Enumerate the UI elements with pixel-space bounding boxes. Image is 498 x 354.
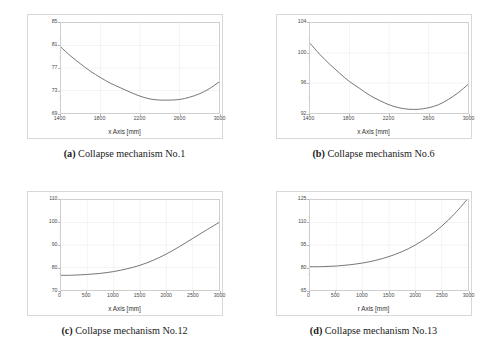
y-tick-mark — [58, 199, 60, 200]
x-tick-mark — [349, 114, 350, 116]
y-tick-mark — [307, 222, 309, 223]
chart-inner-a: Collapse load [kN/m²] 6973778185 1400180… — [28, 15, 222, 138]
x-tick-label: 0 — [307, 293, 310, 298]
y-tick-mark — [307, 268, 309, 269]
x-tick-label: 1500 — [383, 293, 395, 298]
y-tick-mark — [307, 245, 309, 246]
x-tick-labels-b: 14001800220026003000 — [277, 116, 471, 125]
x-tick-mark — [362, 291, 363, 293]
x-tick-label: 1800 — [343, 116, 355, 121]
figure-panel-b: Collapse load [kN/m²] 9296100104 1400180… — [249, 0, 498, 177]
plot-svg-d — [310, 200, 468, 290]
panel-tag-d: (d) — [310, 325, 322, 336]
panel-tag-a: (a) — [64, 148, 76, 159]
x-tick-label: 0 — [58, 293, 61, 298]
x-axis-title-a: x Axis [mm] — [28, 128, 222, 135]
figure-panel-d: Collapse load [kN/m²] 658095110125 05001… — [249, 177, 498, 354]
x-tick-mark — [140, 291, 141, 293]
y-axis-title-wrap-b: Collapse load [kN/m²] — [281, 21, 291, 116]
x-tick-label: 2600 — [174, 116, 186, 121]
figure-panel-c: Collapse load [kN/m²] 708090100110 05001… — [0, 177, 249, 354]
panel-caption-text-a: Collapse mechanism No.1 — [78, 148, 185, 159]
x-tick-label: 2200 — [134, 116, 146, 121]
x-tick-label: 1400 — [54, 116, 66, 121]
x-tick-mark — [113, 291, 114, 293]
y-tick-label: 125 — [298, 196, 307, 201]
chart-frame-c: Collapse load [kN/m²] 708090100110 05001… — [27, 191, 223, 316]
x-tick-label: 2000 — [160, 293, 172, 298]
panel-tag-c: (c) — [61, 325, 72, 336]
x-axis-title-d: r Axis [mm] — [277, 305, 471, 312]
x-tick-label: 2000 — [409, 293, 421, 298]
x-tick-mark — [220, 291, 221, 293]
x-tick-mark — [335, 291, 336, 293]
x-tick-label: 3000 — [463, 116, 475, 121]
x-axis-title-c: x Axis [mm] — [28, 305, 222, 312]
x-tick-label: 1500 — [134, 293, 146, 298]
y-tick-mark — [307, 22, 309, 23]
x-tick-mark — [469, 114, 470, 116]
y-axis-title-wrap-c: Collapse load [kN/m²] — [32, 198, 42, 293]
y-tick-label: 104 — [298, 19, 307, 24]
x-tick-mark — [60, 291, 61, 293]
plot-svg-c — [61, 200, 219, 290]
plot-area-a — [60, 22, 220, 114]
x-tick-label: 2500 — [187, 293, 199, 298]
x-tick-label: 3000 — [214, 293, 226, 298]
x-tick-mark — [86, 291, 87, 293]
x-tick-label: 2500 — [436, 293, 448, 298]
x-tick-mark — [140, 114, 141, 116]
x-tick-labels-d: 050010001500200025003000 — [277, 293, 471, 302]
x-tick-mark — [180, 114, 181, 116]
y-axis-title-wrap-d: Collapse load [kN/m²] — [281, 198, 291, 293]
x-tick-mark — [389, 291, 390, 293]
y-tick-mark — [58, 68, 60, 69]
plot-svg-b — [310, 23, 468, 113]
plot-area-c — [60, 199, 220, 291]
x-tick-mark — [309, 114, 310, 116]
figure-panel-grid: Collapse load [kN/m²] 6973778185 1400180… — [0, 0, 498, 354]
x-axis-title-b: x Axis [mm] — [277, 128, 471, 135]
y-tick-label: 110 — [298, 219, 306, 224]
chart-inner-c: Collapse load [kN/m²] 708090100110 05001… — [28, 192, 222, 315]
panel-caption-d: (d) Collapse mechanism No.13 — [310, 325, 437, 336]
x-tick-label: 1000 — [356, 293, 368, 298]
y-tick-mark — [58, 245, 60, 246]
x-tick-label: 3000 — [463, 293, 475, 298]
x-tick-label: 1800 — [94, 116, 106, 121]
y-tick-mark — [58, 45, 60, 46]
x-tick-mark — [469, 291, 470, 293]
x-tick-label: 2200 — [383, 116, 395, 121]
y-tick-mark — [58, 91, 60, 92]
panel-caption-text-c: Collapse mechanism No.12 — [75, 325, 187, 336]
y-tick-mark — [58, 268, 60, 269]
panel-caption-c: (c) Collapse mechanism No.12 — [61, 325, 187, 336]
y-tick-label: 110 — [49, 196, 57, 201]
x-tick-mark — [389, 114, 390, 116]
x-tick-mark — [220, 114, 221, 116]
panel-caption-a: (a) Collapse mechanism No.1 — [64, 148, 186, 159]
x-tick-mark — [166, 291, 167, 293]
chart-inner-b: Collapse load [kN/m²] 9296100104 1400180… — [277, 15, 471, 138]
y-tick-mark — [58, 222, 60, 223]
plot-area-b — [309, 22, 469, 114]
chart-inner-d: Collapse load [kN/m²] 658095110125 05001… — [277, 192, 471, 315]
plot-svg-a — [61, 23, 219, 113]
y-tick-mark — [307, 199, 309, 200]
y-tick-mark — [307, 83, 309, 84]
chart-frame-a: Collapse load [kN/m²] 6973778185 1400180… — [27, 14, 223, 139]
x-tick-label: 1000 — [107, 293, 119, 298]
y-tick-mark — [307, 53, 309, 54]
panel-caption-text-d: Collapse mechanism No.13 — [325, 325, 437, 336]
x-tick-label: 500 — [82, 293, 91, 298]
panel-caption-b: (b) Collapse mechanism No.6 — [312, 148, 434, 159]
x-tick-label: 2600 — [423, 116, 435, 121]
y-tick-mark — [58, 22, 60, 23]
x-tick-labels-c: 050010001500200025003000 — [28, 293, 222, 302]
x-tick-labels-a: 14001800220026003000 — [28, 116, 222, 125]
x-tick-mark — [309, 291, 310, 293]
x-tick-mark — [60, 114, 61, 116]
x-tick-mark — [442, 291, 443, 293]
chart-frame-d: Collapse load [kN/m²] 658095110125 05001… — [276, 191, 472, 316]
y-tick-label: 100 — [49, 219, 58, 224]
